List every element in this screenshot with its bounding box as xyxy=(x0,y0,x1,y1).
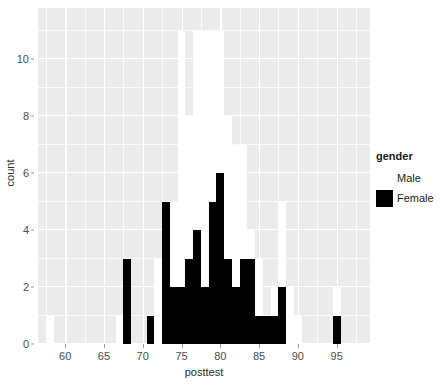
x-tick-label: 85 xyxy=(253,350,265,362)
histogram-bar-segment xyxy=(178,287,186,344)
histogram-bar-segment xyxy=(240,259,248,344)
histogram-bar-segment xyxy=(333,316,341,344)
chart-root: count 0246810 6065707580859095 posttest … xyxy=(0,0,441,385)
histogram-bar-segment xyxy=(294,316,302,344)
histogram-bar-segment xyxy=(224,116,232,258)
x-tick-mark xyxy=(337,344,338,348)
y-tick-mark xyxy=(31,116,34,117)
y-axis-ticks: 0246810 xyxy=(14,0,34,345)
gridline-major-x xyxy=(143,8,144,344)
legend-item-label: Male xyxy=(397,172,421,184)
legend-item[interactable]: Male xyxy=(376,168,440,188)
histogram-bar-segment xyxy=(193,230,201,344)
legend-title: gender xyxy=(376,150,440,162)
histogram-bar-segment xyxy=(162,202,170,344)
gridline-minor-x xyxy=(85,8,86,344)
histogram-bar-segment xyxy=(333,287,341,315)
gridline-minor-x xyxy=(46,8,47,344)
histogram-bar-segment xyxy=(209,202,217,344)
gridline-major-x xyxy=(104,8,105,344)
y-tick-label: 0 xyxy=(23,338,29,350)
legend-items: MaleFemale xyxy=(376,168,440,208)
histogram-bar-segment xyxy=(154,259,162,344)
y-tick-label: 4 xyxy=(23,224,29,236)
legend: gender MaleFemale xyxy=(376,150,440,208)
gridline-minor-x xyxy=(317,8,318,344)
legend-key-swatch xyxy=(376,190,393,207)
histogram-bar-segment xyxy=(255,316,263,344)
histogram-bar-segment xyxy=(216,31,224,173)
histogram-bar-segment xyxy=(224,259,232,344)
histogram-bar-segment xyxy=(255,259,263,316)
histogram-bar-segment xyxy=(216,173,224,344)
x-tick-label: 75 xyxy=(175,350,187,362)
y-tick-mark xyxy=(31,287,34,288)
histogram-bar-segment xyxy=(147,316,155,344)
histogram-bar-segment xyxy=(46,316,54,344)
legend-item-label: Female xyxy=(397,192,434,204)
y-tick-label: 8 xyxy=(23,110,29,122)
histogram-bar-segment xyxy=(185,259,193,344)
histogram-bar-segment xyxy=(247,259,255,344)
x-tick-label: 65 xyxy=(98,350,110,362)
x-axis-title-text: posttest xyxy=(185,366,224,378)
legend-key-swatch xyxy=(376,170,393,187)
x-tick-label: 70 xyxy=(137,350,149,362)
histogram-bar-segment xyxy=(209,31,217,202)
histogram-bar-segment xyxy=(232,145,240,287)
histogram-bar-segment xyxy=(286,287,294,344)
y-tick-label: 10 xyxy=(17,53,29,65)
x-tick-label: 90 xyxy=(292,350,304,362)
histogram-bar-segment xyxy=(193,31,201,230)
histogram-bar-segment xyxy=(247,230,255,258)
histogram-bar-segment xyxy=(271,287,279,315)
x-tick-label: 80 xyxy=(214,350,226,362)
y-tick-mark xyxy=(31,344,34,345)
x-tick-mark xyxy=(259,344,260,348)
legend-item[interactable]: Female xyxy=(376,188,440,208)
y-tick-mark xyxy=(31,230,34,231)
histogram-bar-segment xyxy=(178,31,186,287)
histogram-bar-segment xyxy=(123,259,131,344)
gridline-major-x xyxy=(298,8,299,344)
x-tick-mark xyxy=(220,344,221,348)
histogram-bar-segment xyxy=(116,316,124,344)
histogram-bar-segment xyxy=(170,202,178,287)
x-tick-mark xyxy=(298,344,299,348)
histogram-bar-segment xyxy=(201,31,209,287)
histogram-bar-segment xyxy=(278,287,286,344)
y-tick-label: 2 xyxy=(23,281,29,293)
x-axis-ticks: 6065707580859095 xyxy=(38,344,370,384)
histogram-bar-segment xyxy=(271,316,279,344)
x-tick-label: 60 xyxy=(59,350,71,362)
y-tick-mark xyxy=(31,173,34,174)
x-tick-label: 95 xyxy=(331,350,343,362)
histogram-bar-segment xyxy=(185,116,193,258)
histogram-bar-segment xyxy=(170,287,178,344)
plot-panel xyxy=(38,8,370,344)
x-tick-mark xyxy=(182,344,183,348)
y-tick-label: 6 xyxy=(23,167,29,179)
histogram-bar-segment xyxy=(201,287,209,344)
x-tick-mark xyxy=(143,344,144,348)
x-axis-title: posttest xyxy=(38,366,370,378)
x-tick-mark xyxy=(65,344,66,348)
gridline-major-x xyxy=(65,8,66,344)
y-tick-mark xyxy=(31,59,34,60)
histogram-bar-segment xyxy=(232,287,240,344)
histogram-bar-segment xyxy=(278,202,286,287)
histogram-bar-segment xyxy=(263,316,271,344)
gridline-minor-x xyxy=(356,8,357,344)
x-tick-mark xyxy=(104,344,105,348)
histogram-bar-segment xyxy=(240,145,248,259)
